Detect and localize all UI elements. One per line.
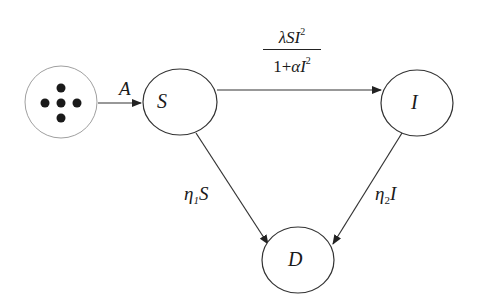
fraction-denominator: 1+αI2 <box>263 51 321 77</box>
edge-label-eta1-s: η1S <box>184 183 208 206</box>
fraction-numerator: λSI2 <box>263 22 321 48</box>
edge-label-eta2-i: η2I <box>375 183 396 206</box>
diagram-graphics <box>0 0 477 300</box>
compartment-diagram: S I D A λSI2 1+αI2 η1S η2I <box>0 0 477 300</box>
source-node <box>25 66 97 138</box>
edge-label-infection-rate: λSI2 1+αI2 <box>263 22 321 77</box>
node-d-label: D <box>288 248 302 271</box>
fraction-bar <box>263 49 321 50</box>
node-i-label: I <box>411 91 418 114</box>
node-s-label: S <box>157 90 167 113</box>
edge-label-a: A <box>119 78 131 100</box>
node-s <box>143 69 217 135</box>
